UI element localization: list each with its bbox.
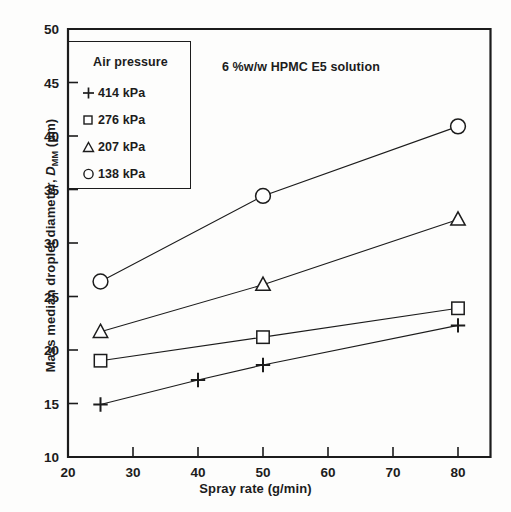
legend-label-276kpa: 276 kPa [98, 113, 145, 127]
x-tick-label: 40 [190, 465, 205, 480]
plus-data-marker [191, 373, 205, 387]
legend-label-207kpa: 207 kPa [98, 140, 145, 154]
circle-data-marker [451, 119, 466, 134]
y-axis-title-units: (μm) [43, 119, 58, 151]
y-axis-title: Mass median droplet diameter, DMM (μm) [43, 91, 58, 401]
square-data-marker [452, 302, 464, 314]
x-tick-label: 20 [60, 465, 75, 480]
legend-item-276kpa: 276 kPa [81, 107, 190, 132]
y-tick-label: 50 [44, 22, 59, 37]
series-207-kpa [93, 212, 465, 338]
series-276-kpa [94, 302, 464, 367]
circle-marker-icon [81, 167, 98, 181]
series-line [101, 325, 459, 404]
x-tick-label: 30 [125, 465, 140, 480]
series-line [101, 219, 459, 331]
y-axis-title-subscript: MM [50, 151, 60, 166]
x-axis-title: Spray rate (g/min) [0, 481, 511, 496]
y-axis-title-variable: D [43, 166, 58, 176]
plus-marker-icon [81, 86, 98, 100]
square-marker-icon [81, 113, 98, 127]
x-tick-label: 50 [255, 465, 270, 480]
plus-data-marker [451, 318, 465, 332]
legend-label-138kpa: 138 kPa [98, 167, 145, 181]
square-data-marker [94, 355, 106, 367]
plus-data-marker [256, 358, 270, 372]
circle-data-marker [256, 189, 271, 204]
legend-title: Air pressure [93, 55, 190, 69]
triangle-marker-icon [81, 140, 98, 154]
legend-item-207kpa: 207 kPa [81, 134, 190, 159]
square-data-marker [257, 331, 269, 343]
series-414-kpa [93, 318, 465, 412]
x-tick-label: 70 [385, 465, 400, 480]
chart-figure: 10152025303540455020304050607080 Air pre… [0, 0, 511, 512]
x-tick-label: 80 [450, 465, 465, 480]
chart-annotation: 6 %w/w HPMC E5 solution [222, 60, 380, 74]
x-tick-label: 60 [320, 465, 335, 480]
circle-data-marker [93, 274, 108, 289]
plus-data-marker [93, 397, 107, 411]
y-axis-title-prefix: Mass median droplet diameter, [43, 176, 58, 373]
legend: Air pressure 414 kPa 276 kPa [68, 41, 191, 189]
legend-item-138kpa: 138 kPa [81, 161, 190, 186]
y-tick-label: 10 [44, 450, 59, 465]
y-tick-label: 45 [44, 76, 60, 91]
triangle-data-marker [451, 212, 465, 225]
triangle-data-marker [256, 277, 270, 290]
legend-item-414kpa: 414 kPa [81, 80, 190, 105]
legend-label-414kpa: 414 kPa [98, 86, 145, 100]
